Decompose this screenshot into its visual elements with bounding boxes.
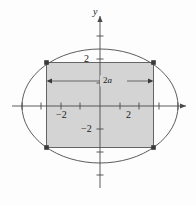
figure-canvas	[0, 0, 196, 205]
y-axis-arrowhead-top	[97, 16, 102, 22]
x-tick-label-negative-2: −2	[56, 109, 67, 120]
width-label-variable: a	[108, 75, 113, 85]
width-label-2a: 2a	[103, 75, 112, 85]
y-axis-label: y	[93, 6, 97, 17]
x-tick-label-positive-2: 2	[126, 109, 131, 120]
math-figure-ellipse-rectangle: y 2 −2 −2 2 2a	[0, 0, 196, 205]
y-tick-label-negative-2: −2	[81, 123, 92, 134]
x-axis-arrowhead-right	[180, 103, 186, 108]
y-tick-label-positive-2: 2	[84, 53, 89, 64]
